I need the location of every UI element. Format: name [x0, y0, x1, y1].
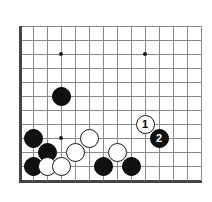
- goban[interactable]: 12: [0, 0, 212, 202]
- star-point: [59, 136, 63, 140]
- go-board-figure: 12: [0, 0, 212, 202]
- grid-line-vertical: [173, 26, 174, 181]
- grid-line-vertical: [159, 26, 160, 181]
- black-stone-b3[interactable]: [24, 129, 43, 148]
- grid-line-vertical: [89, 26, 90, 181]
- grid-line-vertical: [187, 26, 188, 181]
- stone-move-number: 2: [156, 132, 162, 143]
- star-point: [59, 52, 63, 56]
- black-stone-d6[interactable]: [52, 87, 71, 106]
- black-stone-g1[interactable]: [94, 157, 113, 176]
- black-stone-move-2[interactable]: 2: [150, 129, 169, 148]
- white-stone-d1[interactable]: [52, 157, 71, 176]
- white-stone-move-1[interactable]: 1: [136, 115, 155, 134]
- white-stone-f3[interactable]: [80, 129, 99, 148]
- grid-line-vertical: [19, 26, 22, 181]
- grid-line-vertical: [145, 26, 146, 181]
- star-point: [143, 52, 147, 56]
- white-stone-h2[interactable]: [108, 143, 127, 162]
- grid-line-vertical: [201, 26, 202, 181]
- stone-move-number: 1: [142, 118, 148, 129]
- black-stone-j1[interactable]: [122, 157, 141, 176]
- white-stone-e2[interactable]: [66, 143, 85, 162]
